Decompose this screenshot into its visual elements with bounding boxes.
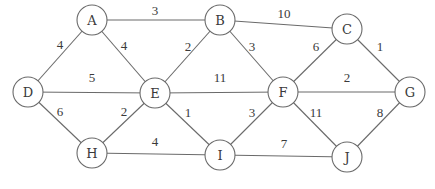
edge-weight-b-f: 3 (249, 39, 256, 54)
node-label: I (217, 148, 222, 163)
node-label: A (86, 13, 97, 28)
node-label: D (23, 85, 33, 100)
node-f: F (268, 77, 298, 107)
edge-weight-e-f: 11 (214, 70, 227, 85)
edge-weight-e-i: 1 (185, 105, 192, 120)
edge-weight-h-i: 4 (152, 134, 159, 149)
edge-weight-f-j: 11 (310, 105, 323, 120)
node-label: C (342, 22, 352, 37)
edge-h-i (92, 153, 220, 155)
edge-weight-c-f: 6 (313, 39, 320, 54)
node-b: B (205, 5, 235, 35)
edge-d-e (28, 92, 155, 93)
node-e: E (140, 78, 170, 108)
edge-weight-i-j: 7 (281, 136, 288, 151)
weighted-graph-diagram: 3441023615112621311847 ABCDEFGHIJ (0, 0, 435, 189)
nodes-layer: ABCDEFGHIJ (13, 5, 425, 172)
node-i: I (205, 140, 235, 170)
node-label: F (278, 85, 287, 100)
edge-weight-f-g: 2 (344, 70, 351, 85)
node-d: D (13, 77, 43, 107)
node-a: A (77, 5, 107, 35)
edge-weight-d-e: 5 (89, 70, 96, 85)
edge-weight-a-b: 3 (152, 3, 159, 18)
edge-weight-f-i: 3 (249, 105, 256, 120)
node-label: J (342, 150, 349, 165)
edge-weight-c-g: 1 (377, 39, 384, 54)
node-j: J (332, 142, 362, 172)
node-c: C (332, 14, 362, 44)
edge-weight-b-e: 2 (185, 39, 192, 54)
edge-weight-b-c: 10 (278, 6, 291, 21)
node-label: H (86, 146, 97, 161)
edge-weight-e-h: 2 (121, 104, 128, 119)
node-h: H (77, 138, 107, 168)
edge-weight-a-e: 4 (121, 38, 128, 53)
node-g: G (395, 77, 425, 107)
node-label: G (405, 85, 415, 100)
edge-weight-d-h: 6 (57, 104, 64, 119)
edge-weight-a-d: 4 (57, 37, 64, 52)
edge-weight-g-j: 8 (377, 105, 384, 120)
edge-i-j (220, 155, 347, 157)
node-label: B (215, 13, 225, 28)
node-label: E (150, 86, 160, 101)
edge-e-f (155, 92, 283, 93)
edge-b-c (220, 20, 347, 29)
